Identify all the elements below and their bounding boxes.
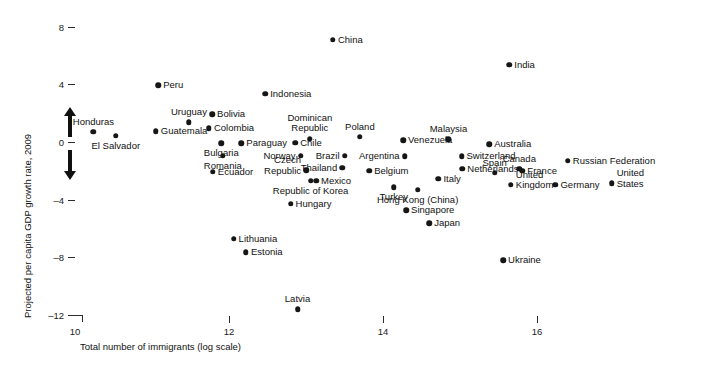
data-point[interactable] [357, 134, 363, 140]
data-point[interactable] [400, 138, 406, 144]
data-point-label: Poland [345, 121, 375, 132]
x-tick-mark [383, 316, 384, 323]
x-tick-label: 14 [378, 326, 389, 337]
data-point-label: Indonesia [270, 88, 311, 99]
y-tick-label: –4 [53, 194, 64, 205]
data-point-label: El Salvador [92, 141, 141, 152]
data-point-label: Russian Federation [573, 155, 655, 166]
x-axis-title: Total number of immigrants (log scale) [80, 341, 241, 352]
data-point-label: Brazil [316, 150, 340, 161]
data-point-label: United Kingdom [516, 169, 554, 190]
y-tick-label: –8 [53, 252, 64, 263]
data-point[interactable] [436, 176, 442, 182]
data-point[interactable] [231, 236, 237, 242]
axis-corner-tick [75, 315, 83, 322]
scatter-plot-figure: 840–4–8–1210121416ChinaIndiaPeruIndonesi… [0, 0, 716, 377]
x-tick-mark [229, 316, 230, 323]
data-point-label: Uruguay [171, 107, 207, 118]
data-point-label: Belgium [374, 166, 408, 177]
data-point-label: Ecuador [218, 166, 253, 177]
y-tick-mark [68, 315, 75, 316]
data-point-label: Netherlands [467, 163, 518, 174]
data-point[interactable] [366, 168, 372, 174]
data-point-label: Ukraine [508, 255, 541, 266]
down-arrow-icon [63, 150, 77, 184]
data-point-label: Czech Republic [264, 155, 301, 176]
data-point[interactable] [262, 91, 268, 97]
data-point[interactable] [243, 250, 249, 256]
data-point-label: Germany [560, 179, 599, 190]
data-point[interactable] [210, 169, 216, 175]
data-point[interactable] [500, 257, 506, 263]
data-point[interactable] [487, 141, 493, 147]
plot-area: 840–4–8–1210121416ChinaIndiaPeruIndonesi… [0, 0, 716, 377]
data-point-label: Singapore [411, 205, 454, 216]
data-point[interactable] [402, 154, 408, 160]
data-point-label: Estonia [251, 247, 283, 258]
data-point[interactable] [415, 187, 421, 193]
data-point-label: Colombia [214, 123, 254, 134]
data-point-label: Italy [443, 174, 460, 185]
data-point-label: Latvia [285, 294, 310, 305]
data-point[interactable] [507, 62, 513, 68]
data-point[interactable] [308, 178, 314, 184]
data-point[interactable] [220, 153, 226, 159]
data-point-label: Bolivia [217, 109, 245, 120]
data-point[interactable] [553, 182, 559, 188]
data-point[interactable] [313, 178, 319, 184]
data-point-label: Australia [494, 139, 531, 150]
data-point-label: Lithuania [239, 233, 278, 244]
data-point-label: Malaysia [430, 124, 468, 135]
data-point-label: Paraguay [246, 138, 287, 149]
y-tick-label: –12 [48, 310, 64, 321]
y-tick-label: 8 [59, 21, 64, 32]
data-point[interactable] [342, 153, 348, 159]
x-tick-label: 10 [70, 326, 81, 337]
data-point[interactable] [288, 201, 294, 207]
data-point[interactable] [339, 165, 345, 171]
data-point[interactable] [295, 306, 301, 312]
data-point[interactable] [153, 128, 159, 134]
data-point[interactable] [330, 37, 336, 43]
data-point[interactable] [219, 141, 225, 147]
data-point-label: Honduras [73, 116, 114, 127]
y-tick-label: 4 [59, 79, 64, 90]
data-point-label: Republic of Korea [273, 186, 349, 197]
data-point[interactable] [303, 167, 309, 173]
data-point-label: Japan [434, 218, 460, 229]
data-point[interactable] [403, 208, 409, 214]
data-point-label: China [338, 34, 363, 45]
y-tick-mark [68, 200, 75, 201]
data-point[interactable] [426, 221, 432, 227]
data-point-label: United States [617, 168, 644, 189]
y-tick-mark [68, 257, 75, 258]
x-tick-mark [537, 316, 538, 323]
y-tick-mark [68, 142, 75, 143]
x-tick-label: 16 [532, 326, 543, 337]
data-point[interactable] [446, 136, 452, 142]
data-point[interactable] [565, 158, 571, 164]
data-point-label: Guatemala [161, 126, 207, 137]
data-point-label: Argentina [359, 151, 400, 162]
data-point[interactable] [508, 182, 514, 188]
data-point[interactable] [209, 111, 215, 117]
data-point-label: Chile [300, 137, 322, 148]
x-tick-label: 12 [224, 326, 235, 337]
data-point-label: India [514, 60, 535, 71]
data-point[interactable] [391, 185, 397, 191]
data-point[interactable] [609, 180, 615, 186]
data-point[interactable] [91, 129, 97, 135]
data-point[interactable] [155, 82, 161, 88]
y-tick-mark [68, 84, 75, 85]
y-tick-mark [68, 27, 75, 28]
data-point[interactable] [292, 140, 298, 146]
data-point[interactable] [460, 166, 466, 172]
y-axis-title: Projected per capita GDP growth rate, 20… [22, 134, 33, 318]
data-point-label: Hungary [296, 199, 332, 210]
data-point[interactable] [113, 133, 119, 139]
data-point-label: Peru [163, 80, 183, 91]
data-point[interactable] [459, 154, 465, 160]
data-point-label: Dominican Republic [287, 113, 332, 134]
data-point[interactable] [239, 141, 245, 147]
